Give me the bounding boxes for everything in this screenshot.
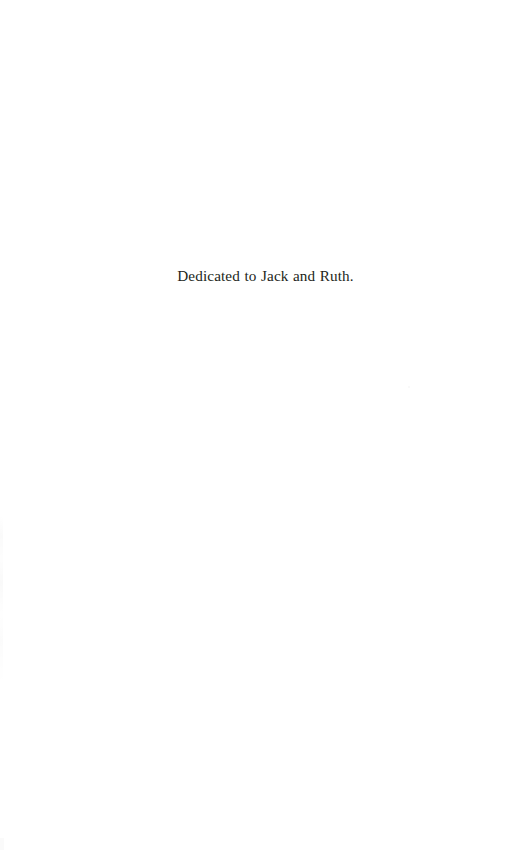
scan-edge-artifact-left xyxy=(0,515,3,685)
dedication-page: Dedicated to Jack and Ruth. xyxy=(0,0,531,860)
dedication-block: Dedicated to Jack and Ruth. xyxy=(0,266,531,285)
dedication-text: Dedicated to Jack and Ruth. xyxy=(177,266,353,285)
scan-speck-artifact xyxy=(408,386,410,388)
scan-edge-artifact-bottom xyxy=(0,838,4,850)
